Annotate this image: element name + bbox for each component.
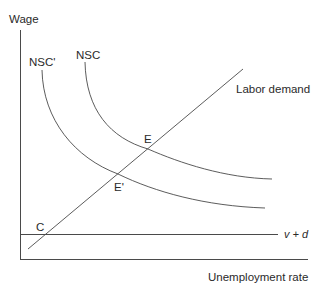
v-plus-d-label: v + d <box>284 229 308 240</box>
y-axis-label: Wage <box>9 14 39 26</box>
nsc-prime-label: NSC' <box>29 57 55 69</box>
x-axis-label: Unemployment rate <box>208 272 308 284</box>
nsc-label: NSC <box>76 50 100 62</box>
diagram-canvas <box>0 0 322 290</box>
point-e-prime-label: E' <box>114 182 124 194</box>
labor-demand-label: Labor demand <box>236 84 310 96</box>
labor-demand-line <box>28 69 243 249</box>
point-c-label: C <box>36 222 44 234</box>
nsc-curve <box>85 62 272 179</box>
point-e-label: E <box>144 134 152 146</box>
diagram: Wage NSC' NSC Labor demand E E' C v + d … <box>0 0 322 290</box>
nsc-prime-curve <box>42 70 265 208</box>
